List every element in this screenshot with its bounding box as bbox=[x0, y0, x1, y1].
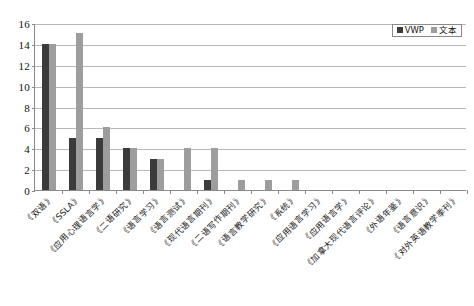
y-axis-tick-label: 12 bbox=[2, 61, 30, 72]
bar-text bbox=[49, 44, 56, 190]
bar-vwp bbox=[42, 44, 49, 190]
legend-item-vwp: VWP bbox=[397, 25, 424, 35]
bar-group bbox=[89, 24, 116, 190]
x-axis-tick-label-text: 《语言教学研究》 bbox=[214, 194, 271, 251]
bar-group bbox=[305, 24, 332, 190]
y-axis-tick-label: 6 bbox=[2, 123, 30, 134]
bar-text bbox=[76, 33, 83, 190]
legend-label-text: 文本 bbox=[439, 25, 457, 35]
y-axis-tick-label: 8 bbox=[2, 103, 30, 114]
y-axis-tick-label: 16 bbox=[2, 19, 30, 30]
y-axis-tick-label: 0 bbox=[2, 186, 30, 197]
legend-label-vwp: VWP bbox=[405, 25, 424, 35]
y-axis-tick-mark bbox=[32, 191, 35, 192]
bar-group bbox=[62, 24, 89, 190]
y-axis-tick-label: 14 bbox=[2, 40, 30, 51]
legend-swatch-icon-vwp bbox=[397, 27, 403, 33]
y-axis-tick-label: 2 bbox=[2, 165, 30, 176]
bar-chart: 0246810121416 《双语》《SSLA》《应用心理语言学》《二语研究》《… bbox=[0, 0, 474, 306]
legend-item-text: 文本 bbox=[431, 25, 457, 35]
legend-swatch-icon-text bbox=[431, 27, 437, 33]
y-axis-tick-label: 10 bbox=[2, 82, 30, 93]
y-axis-tick-label: 4 bbox=[2, 144, 30, 155]
bar-text bbox=[103, 127, 110, 190]
chart-legend: VWP 文本 bbox=[392, 24, 462, 37]
bar-group bbox=[35, 24, 62, 190]
